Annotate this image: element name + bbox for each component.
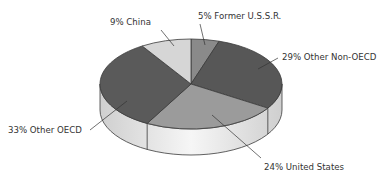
- label-former-ussr: 5% Former U.S.S.R.: [198, 11, 281, 21]
- label-other-oecd: 33% Other OECD: [8, 125, 82, 135]
- pie-chart: 9% China 5% Former U.S.S.R. 29% Other No…: [0, 0, 389, 180]
- label-united-states: 24% United States: [264, 162, 345, 172]
- label-other-non-oecd: 29% Other Non-OECD: [282, 52, 377, 62]
- label-china: 9% China: [110, 17, 151, 27]
- pie-top: [100, 39, 282, 129]
